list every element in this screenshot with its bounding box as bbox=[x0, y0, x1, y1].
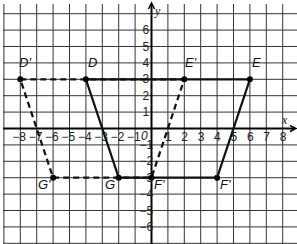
y-tick-label: −6 bbox=[140, 220, 154, 234]
y-tick-label: −4 bbox=[140, 187, 154, 201]
x-tick-label: 4 bbox=[214, 130, 221, 144]
x-tick-label: −2 bbox=[111, 130, 125, 144]
label-g: G bbox=[105, 177, 115, 192]
coordinate-plane: −8−7−6−5−4−3−2−112345678654321−1−2−3−4−5… bbox=[0, 0, 297, 244]
label-e-prime: E' bbox=[185, 55, 197, 70]
vertex-point bbox=[50, 175, 56, 181]
y-tick-label: 6 bbox=[143, 23, 150, 37]
x-tick-label: 3 bbox=[198, 130, 205, 144]
x-tick-label: −6 bbox=[45, 130, 59, 144]
y-tick-label: −2 bbox=[140, 154, 154, 168]
x-tick-label: −4 bbox=[78, 130, 92, 144]
y-tick-label: 4 bbox=[143, 56, 150, 70]
x-tick-label: 2 bbox=[181, 130, 188, 144]
label-e: E bbox=[252, 55, 261, 70]
y-tick-label: −5 bbox=[140, 204, 154, 218]
y-tick-label: 5 bbox=[143, 40, 150, 54]
label-f-prime-image: F' bbox=[154, 177, 165, 192]
label-g-prime: G' bbox=[38, 177, 51, 192]
y-axis-label: y bbox=[154, 4, 161, 18]
x-tick-label: 7 bbox=[263, 130, 270, 144]
label-d-prime: D' bbox=[19, 55, 31, 70]
y-tick-label: 2 bbox=[143, 89, 150, 103]
x-tick-label: 6 bbox=[247, 130, 254, 144]
x-tick-label: 8 bbox=[280, 130, 287, 144]
label-f-prime: F' bbox=[220, 177, 231, 192]
label-d: D bbox=[88, 55, 97, 70]
x-tick-label: −5 bbox=[62, 130, 76, 144]
vertex-point bbox=[247, 76, 253, 82]
origin-label: 0 bbox=[141, 129, 148, 143]
vertex-point bbox=[181, 76, 187, 82]
x-tick-label: −8 bbox=[12, 130, 26, 144]
vertex-point bbox=[116, 175, 122, 181]
y-tick-label: 1 bbox=[143, 105, 150, 119]
x-axis-label: x bbox=[281, 113, 288, 127]
vertex-point bbox=[83, 76, 89, 82]
vertex-point bbox=[17, 76, 23, 82]
